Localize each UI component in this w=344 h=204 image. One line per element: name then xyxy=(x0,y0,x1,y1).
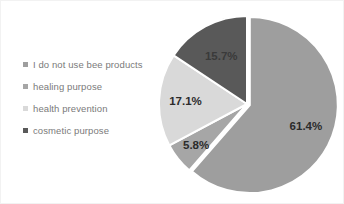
pie-plot-area: 61.4%5.8%17.1%15.7% xyxy=(159,7,341,199)
legend-swatch-icon xyxy=(23,128,28,133)
pie-chart-figure: I do not use bee products healing purpos… xyxy=(0,0,344,204)
pie-svg: 61.4%5.8%17.1%15.7% xyxy=(159,7,341,199)
pie-slice-label: 5.8% xyxy=(183,139,209,151)
legend-swatch-icon xyxy=(23,106,28,111)
pie-slice-label: 17.1% xyxy=(169,95,202,107)
legend-item-i-do-not-use-bee-products[interactable]: I do not use bee products xyxy=(23,53,163,75)
legend-item-label: healing purpose xyxy=(33,81,102,92)
legend-item-label: cosmetic purpose xyxy=(33,125,109,136)
legend-swatch-icon xyxy=(23,62,28,67)
legend-item-healing-purpose[interactable]: healing purpose xyxy=(23,75,163,97)
legend-item-health-prevention[interactable]: health prevention xyxy=(23,97,163,119)
pie-slice-label: 15.7% xyxy=(205,50,238,62)
legend-swatch-icon xyxy=(23,84,28,89)
pie-slice-label: 61.4% xyxy=(290,120,323,132)
chart-legend: I do not use bee products healing purpos… xyxy=(23,53,163,141)
legend-item-label: health prevention xyxy=(33,103,108,114)
legend-item-label: I do not use bee products xyxy=(33,59,143,70)
legend-item-cosmetic-purpose[interactable]: cosmetic purpose xyxy=(23,119,163,141)
